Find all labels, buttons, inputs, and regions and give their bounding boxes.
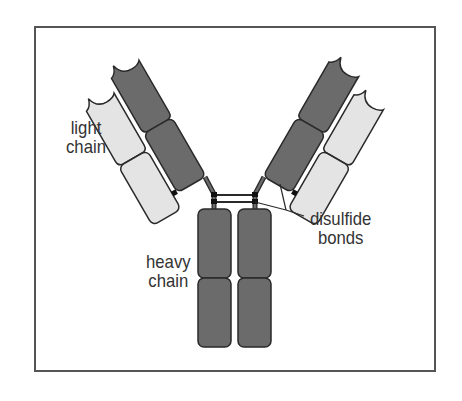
heavy-constant-domain-2-right	[238, 209, 271, 278]
fc-stem	[198, 209, 271, 347]
disulfide-bonds-label-line2: bonds	[310, 228, 371, 247]
heavy-constant-domain-2-left	[198, 209, 231, 278]
right-fab-arm	[255, 53, 395, 225]
light-chain-label-line1: light	[66, 118, 106, 137]
disulfide-bonds-label-line1: disulfide	[310, 209, 371, 228]
heavy-chain-label: heavy chain	[146, 252, 191, 290]
light-chain-label: light chain	[66, 118, 106, 156]
heavy-chain-label-line1: heavy	[146, 252, 191, 271]
hinge-region	[205, 177, 264, 210]
disulfide-bonds-label: disulfide bonds	[310, 209, 371, 247]
light-chain-label-line2: chain	[66, 137, 106, 156]
antibody-diagram	[0, 0, 462, 401]
heavy-constant-domain-3-right	[238, 278, 271, 347]
heavy-constant-domain-3-left	[198, 278, 231, 347]
heavy-chain-label-line2: chain	[146, 271, 191, 290]
